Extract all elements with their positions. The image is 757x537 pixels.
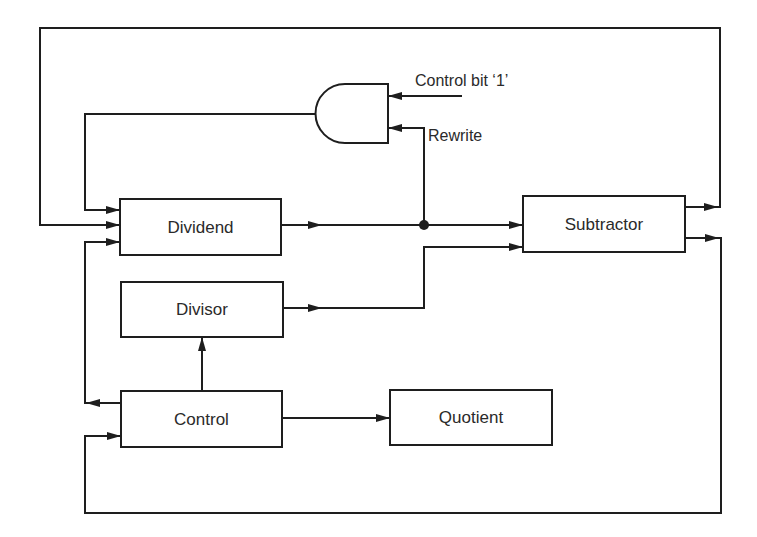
rewrite-wire xyxy=(388,128,424,225)
control-to-dividend-wire xyxy=(85,242,121,403)
subtractor-to-control-wire xyxy=(85,238,721,513)
rewrite-label: Rewrite xyxy=(428,127,482,144)
dividend-block: Dividend xyxy=(120,199,281,255)
divisor-to-subtractor-wire xyxy=(283,247,523,308)
dividend-to-subtractor-wire xyxy=(281,220,523,230)
dividend-label: Dividend xyxy=(167,218,233,237)
control-block: Control xyxy=(121,391,282,447)
subtractor-label: Subtractor xyxy=(565,215,644,234)
divisor-label: Divisor xyxy=(176,300,228,319)
junction-dot xyxy=(419,220,429,230)
divisor-block: Divisor xyxy=(121,282,283,337)
quotient-block: Quotient xyxy=(390,390,552,445)
subtractor-block: Subtractor xyxy=(523,196,685,252)
quotient-label: Quotient xyxy=(439,408,504,427)
and-gate xyxy=(316,84,388,143)
and-gate-to-dividend-wire xyxy=(85,114,315,210)
control-bit-label: Control bit ‘1’ xyxy=(415,72,508,89)
division-block-diagram: Dividend Divisor Control Quotient Subtra… xyxy=(0,0,757,537)
control-label: Control xyxy=(174,410,229,429)
